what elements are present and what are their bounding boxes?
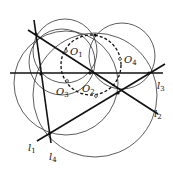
point-5 <box>48 131 51 134</box>
line-l2 <box>28 30 158 114</box>
label-l2: l2 <box>154 108 162 121</box>
line-l1 <box>37 64 165 141</box>
label-O4: O4 <box>124 54 137 67</box>
label-O1: O1 <box>70 46 83 59</box>
label-l4: l4 <box>49 151 57 164</box>
point-0 <box>34 32 37 35</box>
center-O3 <box>66 80 69 83</box>
lines <box>10 20 165 143</box>
point-4 <box>147 71 150 74</box>
point-6 <box>93 33 96 36</box>
center-O2 <box>95 95 98 98</box>
point-3 <box>116 91 119 94</box>
point-2 <box>88 71 91 74</box>
label-l1: l1 <box>28 142 36 155</box>
label-O3: O3 <box>56 86 69 99</box>
label-O2: O2 <box>82 83 95 96</box>
point-1 <box>39 72 42 75</box>
geometry-diagram: l1l2l3l4O1O2O3O4 <box>0 0 173 169</box>
label-l3: l3 <box>157 80 165 93</box>
center-O1 <box>65 50 68 53</box>
circle-c4 <box>89 23 155 89</box>
center-O4 <box>119 58 122 61</box>
